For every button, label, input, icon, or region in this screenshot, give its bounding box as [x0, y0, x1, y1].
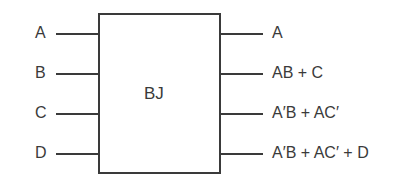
output-line-2	[221, 73, 263, 75]
output-line-1	[221, 33, 263, 35]
output-label-3: A′B + AC′	[272, 104, 339, 122]
input-label-a: A	[35, 24, 46, 42]
input-line-a	[56, 33, 99, 35]
input-line-b	[56, 73, 99, 75]
input-label-b: B	[35, 64, 46, 82]
output-label-1: A	[272, 24, 283, 42]
input-line-c	[56, 113, 99, 115]
block-label: BJ	[144, 84, 164, 104]
output-line-4	[221, 153, 263, 155]
input-line-d	[56, 153, 99, 155]
input-label-d: D	[35, 144, 47, 162]
output-line-3	[221, 113, 263, 115]
output-label-2: AB + C	[272, 64, 323, 82]
output-label-4: A′B + AC′ + D	[272, 144, 369, 162]
input-label-c: C	[35, 104, 47, 122]
